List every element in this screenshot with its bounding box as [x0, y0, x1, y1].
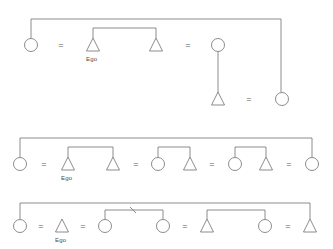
- ego-label: Ego: [86, 56, 97, 62]
- diagram-3-symbols: [14, 219, 317, 233]
- sibling-bracket-d3: [207, 210, 265, 219]
- node-male-triangle: [62, 157, 75, 170]
- sibling-bracket-d2: [235, 147, 266, 157]
- node-male-triangle: [150, 38, 163, 51]
- sibling-bracket-d1: [93, 28, 156, 38]
- marriage-equals-sign: =: [246, 94, 251, 104]
- node-female-circle: [14, 158, 27, 171]
- sibling-bracket-d2: [158, 147, 190, 157]
- node-female-circle: [212, 39, 225, 52]
- ego-label: Ego: [61, 175, 72, 181]
- marriage-equals-sign: =: [285, 221, 290, 231]
- node-male-triangle: [56, 219, 69, 232]
- node-male-triangle: [107, 157, 120, 170]
- marriage-equals-sign: =: [58, 40, 63, 50]
- node-female-circle: [14, 220, 27, 233]
- marriage-equals-sign: =: [286, 159, 291, 169]
- node-female-circle: [306, 158, 319, 171]
- node-male-triangle: [201, 219, 214, 232]
- marriage-equals-sign: =: [185, 40, 190, 50]
- node-female-circle: [152, 158, 165, 171]
- marriage-equals-sign: =: [182, 221, 187, 231]
- marriage-equals-sign: =: [80, 221, 85, 231]
- diagram-2-symbols: [14, 157, 319, 171]
- diagram-1-lines: [31, 19, 281, 92]
- kinship-diagram-figure: = = = = = = = = = = = Ego Ego Ego: [0, 0, 333, 249]
- marriage-equals-sign: =: [38, 221, 43, 231]
- node-male-triangle: [304, 219, 317, 232]
- kinship-lines-canvas: [0, 0, 333, 249]
- node-male-triangle: [87, 38, 100, 51]
- marriage-equals-sign: =: [41, 159, 46, 169]
- node-female-circle: [276, 93, 289, 106]
- node-female-circle: [229, 158, 242, 171]
- descent-line-outer-d3: [20, 203, 310, 219]
- diagram-2-lines: [20, 138, 312, 157]
- diagram-3-lines: [20, 203, 310, 219]
- descent-line-outer-d2: [20, 138, 312, 157]
- node-male-triangle: [212, 92, 225, 105]
- sibling-bracket-d2: [68, 147, 113, 157]
- node-male-triangle: [184, 157, 197, 170]
- ego-label: Ego: [55, 237, 66, 243]
- node-female-circle: [157, 220, 170, 233]
- marriage-equals-sign: =: [133, 159, 138, 169]
- node-female-circle: [259, 220, 272, 233]
- node-female-circle: [25, 39, 38, 52]
- node-female-circle: [99, 220, 112, 233]
- node-male-triangle: [260, 157, 273, 170]
- marriage-equals-sign: =: [209, 159, 214, 169]
